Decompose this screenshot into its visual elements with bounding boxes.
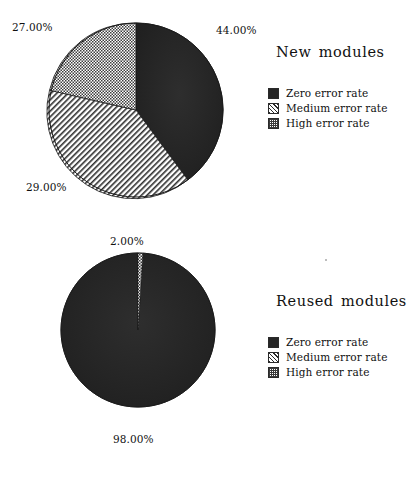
legend-swatch-checker-icon xyxy=(268,367,279,378)
pie-label-reused-zero: 98.00% xyxy=(113,433,154,445)
legend-item-medium-error-rate[interactable]: Medium error rate xyxy=(268,350,408,364)
pie-label-reused-high: 2.00% xyxy=(110,235,144,247)
pie-charts-figure: { "figure": { "background_color": "#ffff… xyxy=(0,0,410,480)
legend-swatch-solid-icon xyxy=(268,337,279,348)
legend-item-zero-error-rate[interactable]: Zero error rate xyxy=(268,86,408,100)
pie-new-modules xyxy=(44,20,228,200)
scan-speck xyxy=(325,259,327,261)
chart-title-reused-modules: Reused modules xyxy=(276,293,408,309)
legend-new-modules: New modules Zero error rate Medium error… xyxy=(268,44,408,131)
legend-label-high-error-rate: High error rate xyxy=(286,366,369,378)
legend-list: Zero error rate Medium error rate High e… xyxy=(268,335,408,379)
pie-label-new-medium: 29.00% xyxy=(26,181,67,193)
legend-label-zero-error-rate: Zero error rate xyxy=(286,336,368,348)
pie-reused-modules xyxy=(58,251,220,409)
legend-label-medium-error-rate: Medium error rate xyxy=(286,102,387,114)
pie-label-new-zero: 44.00% xyxy=(216,24,257,36)
pie-label-new-high: 27.00% xyxy=(12,21,53,33)
chart-title-new-modules: New modules xyxy=(276,44,408,60)
legend-label-medium-error-rate: Medium error rate xyxy=(286,351,387,363)
legend-item-high-error-rate[interactable]: High error rate xyxy=(268,116,408,130)
legend-swatch-checker-icon xyxy=(268,118,279,129)
pie-new-modules-svg xyxy=(44,20,228,200)
legend-label-high-error-rate: High error rate xyxy=(286,117,369,129)
legend-reused-modules: Reused modules Zero error rate Medium er… xyxy=(268,293,408,380)
chart-reused-modules: 2.00% 98.00% Reused modules Zero error r… xyxy=(0,235,410,480)
legend-list: Zero error rate Medium error rate High e… xyxy=(268,86,408,130)
legend-item-zero-error-rate[interactable]: Zero error rate xyxy=(268,335,408,349)
legend-swatch-solid-icon xyxy=(268,88,279,99)
chart-new-modules: 27.00% 44.00% 29.00% New modules Zero er… xyxy=(0,0,410,235)
legend-swatch-hatch-icon xyxy=(268,352,279,363)
legend-item-high-error-rate[interactable]: High error rate xyxy=(268,365,408,379)
legend-label-zero-error-rate: Zero error rate xyxy=(286,87,368,99)
legend-item-medium-error-rate[interactable]: Medium error rate xyxy=(268,101,408,115)
legend-swatch-hatch-icon xyxy=(268,103,279,114)
pie-reused-modules-svg xyxy=(58,251,220,409)
